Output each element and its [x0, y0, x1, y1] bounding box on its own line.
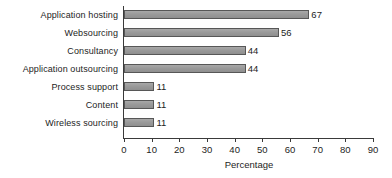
x-tick: [152, 138, 153, 142]
x-tick-label: 80: [333, 144, 357, 155]
x-tick-label: 60: [278, 144, 302, 155]
bar: [124, 118, 154, 127]
category-label: Process support: [0, 82, 118, 92]
x-tick: [235, 138, 236, 142]
x-tick-label: 0: [112, 144, 136, 155]
bar-container: 56: [124, 28, 279, 38]
bar-row: Content11: [0, 96, 392, 114]
x-tick-label: 20: [167, 144, 191, 155]
x-tick: [207, 138, 208, 142]
bar-row: Wireless sourcing11: [0, 114, 392, 132]
x-tick: [124, 138, 125, 142]
bar-value-label: 11: [156, 117, 166, 128]
bar: [124, 10, 309, 19]
category-label: Consultancy: [0, 46, 118, 56]
x-tick-label: 70: [306, 144, 330, 155]
bar-container: 11: [124, 82, 154, 92]
bar-row: Application hosting67: [0, 6, 392, 24]
bar-container: 11: [124, 100, 154, 110]
x-axis-title: Percentage: [124, 159, 374, 170]
bar-container: 44: [124, 46, 246, 56]
x-tick-label: 10: [140, 144, 164, 155]
bar-value-label: 11: [156, 81, 166, 92]
category-label: Application outsourcing: [0, 64, 118, 74]
x-tick: [318, 138, 319, 142]
x-tick: [179, 138, 180, 142]
bar-row: Consultancy44: [0, 42, 392, 60]
category-label: Application hosting: [0, 10, 118, 20]
category-label: Websourcing: [0, 28, 118, 38]
bar: [124, 82, 154, 91]
bar-row: Process support11: [0, 78, 392, 96]
bar-value-label: 44: [248, 45, 259, 56]
bar-value-label: 67: [311, 9, 322, 20]
x-tick-label: 40: [223, 144, 247, 155]
x-tick: [373, 138, 374, 142]
bar: [124, 46, 246, 55]
x-tick-label: 30: [195, 144, 219, 155]
bar-value-label: 11: [156, 99, 166, 110]
category-label: Content: [0, 100, 118, 110]
bar-container: 44: [124, 64, 246, 74]
x-tick-label: 90: [361, 144, 385, 155]
bar-value-label: 44: [248, 63, 259, 74]
bar-row: Websourcing56: [0, 24, 392, 42]
bar: [124, 100, 154, 109]
x-tick-label: 50: [250, 144, 274, 155]
bar-container: 11: [124, 118, 154, 128]
bar-value-label: 56: [281, 27, 292, 38]
category-label: Wireless sourcing: [0, 118, 118, 128]
bar-row: Application outsourcing44: [0, 60, 392, 78]
x-tick: [345, 138, 346, 142]
bar: [124, 64, 246, 73]
x-tick: [262, 138, 263, 142]
bar: [124, 28, 279, 37]
bar-container: 67: [124, 10, 309, 20]
bar-chart: Application hosting67Websourcing56Consul…: [0, 0, 392, 178]
x-axis-ticks: 0102030405060708090: [0, 138, 392, 139]
x-tick: [290, 138, 291, 142]
bar-rows: Application hosting67Websourcing56Consul…: [0, 6, 392, 132]
